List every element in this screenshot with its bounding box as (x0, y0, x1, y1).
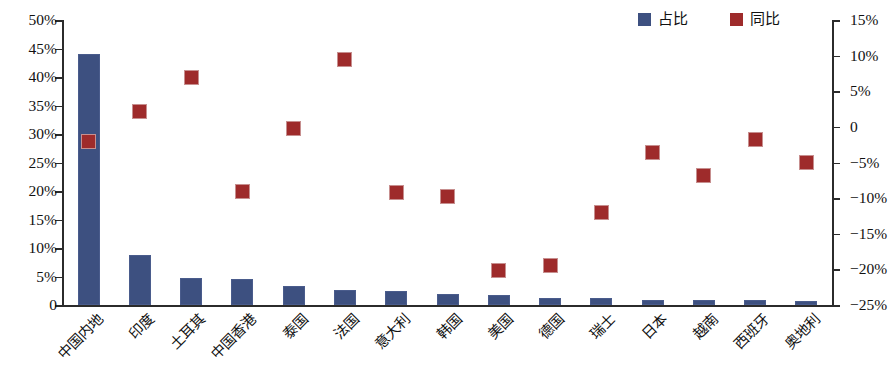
left-tick-label: 35% (29, 98, 57, 114)
right-tick-mark (833, 127, 840, 129)
left-tick-label: 50% (29, 12, 57, 28)
baseline-axis (62, 305, 833, 307)
bar-泰国 (283, 286, 305, 305)
right-tick-label: 15% (850, 12, 878, 28)
category-label-日本: 日本 (639, 312, 669, 342)
left-tick-label: 0 (49, 297, 57, 313)
marker-意大利 (389, 185, 404, 200)
bar-中国内地 (78, 54, 100, 305)
right-tick-mark (833, 163, 840, 165)
right-tick-mark (833, 198, 840, 200)
bar-西班牙 (744, 300, 766, 305)
category-label-土耳其: 土耳其 (167, 312, 207, 352)
right-tick-label: −5% (850, 155, 879, 171)
left-tick-label: 45% (29, 41, 57, 57)
left-tick-label: 15% (29, 212, 57, 228)
category-label-印度: 印度 (126, 312, 156, 342)
right-tick-mark (833, 91, 840, 93)
right-tick-mark (833, 20, 840, 22)
left-tick-label: 40% (29, 69, 57, 85)
bar-瑞士 (590, 298, 612, 305)
right-tick-label: 5% (850, 83, 871, 99)
right-tick-mark (833, 56, 840, 58)
bar-印度 (129, 255, 151, 305)
left-tick-label: 5% (36, 269, 57, 285)
right-tick-label: 0 (850, 119, 858, 135)
marker-越南 (696, 168, 711, 183)
marker-韩国 (440, 189, 455, 204)
marker-德国 (543, 258, 558, 273)
marker-瑞士 (594, 205, 609, 220)
left-tick-label: 20% (29, 183, 57, 199)
left-tick-label: 25% (29, 155, 57, 171)
category-label-意大利: 意大利 (373, 312, 413, 352)
marker-印度 (132, 104, 147, 119)
right-tick-mark (833, 234, 840, 236)
bar-韩国 (437, 294, 459, 305)
right-tick-label: −25% (850, 297, 887, 313)
category-label-泰国: 泰国 (280, 312, 310, 342)
category-label-美国: 美国 (485, 312, 515, 342)
marker-中国香港 (235, 184, 250, 199)
bar-土耳其 (180, 278, 202, 305)
marker-土耳其 (184, 70, 199, 85)
bar-德国 (539, 298, 561, 305)
category-label-韩国: 韩国 (434, 312, 464, 342)
category-label-瑞士: 瑞士 (587, 312, 617, 342)
bar-法国 (334, 290, 356, 305)
bar-日本 (642, 300, 664, 305)
marker-法国 (337, 52, 352, 67)
category-label-法国: 法国 (331, 312, 361, 342)
right-tick-label: −20% (850, 261, 887, 277)
left-tick-label: 30% (29, 126, 57, 142)
chart-container: 占比 同比 50%45%40%35%30%25%20%15%10%5%0 15%… (0, 0, 893, 378)
bar-奥地利 (795, 301, 817, 305)
category-label-奥地利: 奥地利 (783, 312, 823, 352)
marker-西班牙 (748, 132, 763, 147)
plot-area: 50%45%40%35%30%25%20%15%10%5%0 15%10%5%0… (63, 20, 832, 305)
category-label-越南: 越南 (690, 312, 720, 342)
bar-中国香港 (231, 279, 253, 305)
marker-美国 (491, 263, 506, 278)
category-label-德国: 德国 (536, 312, 566, 342)
category-label-西班牙: 西班牙 (731, 312, 771, 352)
left-axis-line (62, 20, 64, 305)
marker-泰国 (286, 121, 301, 136)
category-label-中国香港: 中国香港 (209, 312, 259, 362)
right-tick-label: −10% (850, 190, 887, 206)
right-tick-mark (833, 269, 840, 271)
right-tick-label: 10% (850, 48, 878, 64)
bar-美国 (488, 295, 510, 305)
right-tick-label: −15% (850, 226, 887, 242)
bar-越南 (693, 300, 715, 305)
category-label-中国内地: 中国内地 (55, 312, 105, 362)
left-tick-label: 10% (29, 240, 57, 256)
right-tick-mark (833, 305, 840, 307)
bar-意大利 (385, 291, 407, 305)
marker-中国内地 (81, 134, 96, 149)
marker-奥地利 (799, 155, 814, 170)
marker-日本 (645, 145, 660, 160)
